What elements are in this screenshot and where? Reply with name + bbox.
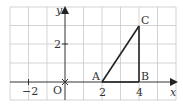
point-c-label: C — [141, 14, 149, 27]
point-b-label: B — [141, 70, 149, 83]
x-tick-label-neg2: −2 — [22, 85, 38, 98]
ticks — [29, 44, 69, 85]
x-axis-label: x — [170, 86, 177, 99]
y-axis-label: y — [55, 4, 63, 17]
y-tick-label-2: 2 — [54, 38, 61, 51]
coordinate-diagram: y x O −2 2 4 2 A B C — [0, 0, 183, 108]
x-tick-label-2: 2 — [99, 86, 106, 99]
x-tick-label-4: 4 — [136, 86, 143, 99]
origin-label: O — [53, 84, 62, 97]
x-axis-arrow-icon — [170, 78, 178, 86]
point-a-label: A — [91, 70, 101, 83]
